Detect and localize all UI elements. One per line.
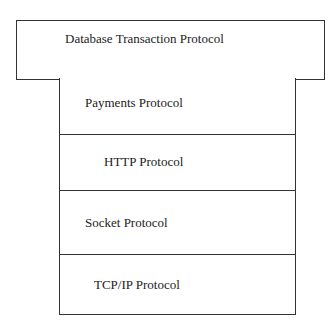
layer-database-transaction: Database Transaction Protocol: [16, 20, 325, 80]
layer-payments: Payments Protocol: [59, 78, 296, 136]
layer-tcp-ip: TCP/IP Protocol: [59, 254, 296, 315]
layer-label: Payments Protocol: [85, 95, 183, 111]
layer-label: TCP/IP Protocol: [94, 277, 180, 293]
layer-socket: Socket Protocol: [59, 190, 296, 256]
layer-http: HTTP Protocol: [59, 134, 296, 192]
layer-label: Database Transaction Protocol: [65, 31, 224, 47]
layer-label: HTTP Protocol: [104, 154, 183, 170]
layer-label: Socket Protocol: [85, 215, 168, 231]
